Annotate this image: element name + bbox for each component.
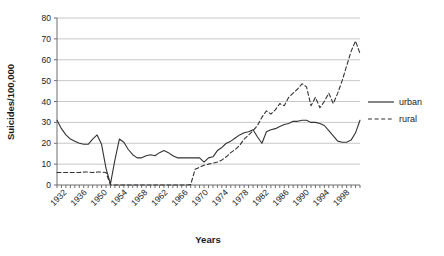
- legend-label-rural: rural: [399, 114, 417, 124]
- y-axis-tick-labels-group: 01020304050607080: [42, 13, 52, 190]
- chart-container: 01020304050607080 1932193619501954195819…: [0, 0, 444, 256]
- legend-label-urban: urban: [399, 97, 422, 107]
- y-axis-tick-label: 70: [42, 34, 52, 44]
- y-axis-tick-label: 30: [42, 117, 52, 127]
- x-axis-title: Years: [195, 234, 220, 245]
- y-axis-tick-label: 80: [42, 13, 52, 23]
- y-axis-tick-label: 40: [42, 97, 52, 107]
- y-axis-tick-label: 20: [42, 138, 52, 148]
- y-axis-tick-label: 10: [42, 159, 52, 169]
- y-axis-tick-label: 60: [42, 55, 52, 65]
- y-axis-tick-label: 0: [46, 180, 51, 190]
- y-axis-tick-label: 50: [42, 76, 52, 86]
- suicide-rate-line-chart: 01020304050607080 1932193619501954195819…: [0, 0, 444, 256]
- y-axis-title: Suicides/100,000: [5, 64, 16, 140]
